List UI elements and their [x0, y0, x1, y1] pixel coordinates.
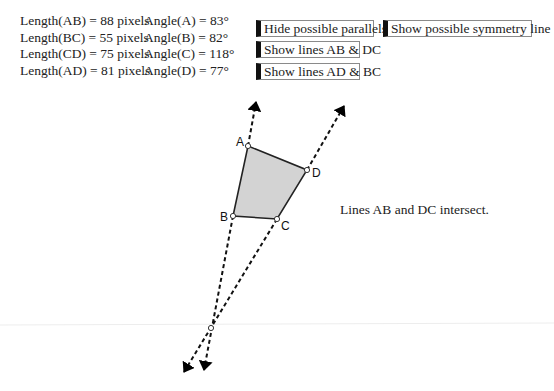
vertex-b-label: B — [220, 210, 228, 224]
geometry-canvas[interactable]: A B C D — [0, 0, 554, 391]
intersection-point — [208, 325, 213, 330]
vertex-a-handle[interactable] — [245, 143, 250, 148]
vertex-c-handle[interactable] — [274, 216, 279, 221]
quadrilateral-abcd — [233, 146, 307, 219]
line-dc-extended — [184, 106, 344, 372]
vertex-d-handle[interactable] — [304, 167, 309, 172]
vertex-a-label: A — [236, 135, 244, 149]
vertex-d-label: D — [312, 166, 321, 180]
vertex-c-label: C — [281, 219, 290, 233]
vertex-b-handle[interactable] — [230, 213, 235, 218]
faint-guide-line — [0, 323, 554, 325]
